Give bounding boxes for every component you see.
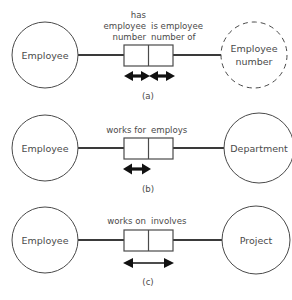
cardinality-arrow-a-2 [149, 71, 175, 81]
role-label-a-right-line2: number of [151, 32, 197, 42]
caption-a: (a) [142, 91, 154, 101]
entity-employee-b-label: Employee [21, 143, 68, 154]
role-label-b-left: works for [106, 125, 146, 135]
cardinality-arrow-a-1 [124, 71, 150, 81]
er-diagram-figure: Employee Employee number has employee nu… [0, 0, 292, 300]
entity-employee-number-a-label-line2: number [235, 56, 272, 67]
role-label-a-left-line3: number [112, 32, 146, 42]
panel-a: Employee Employee number has employee nu… [12, 10, 287, 101]
panel-c: Employee Project works on involves (c) [12, 206, 290, 287]
diagram-canvas: Employee Employee number has employee nu… [0, 0, 292, 300]
entity-department-b-label: Department [230, 143, 288, 154]
role-label-c-right: involves [151, 216, 187, 226]
panel-b: Employee Department works for employs (b… [12, 113, 292, 194]
cardinality-arrow-b-1 [123, 164, 151, 175]
entity-employee-number-a-label-line1: Employee [230, 43, 277, 54]
role-label-a-right-line1: is employee [151, 21, 203, 31]
role-label-c-left: works on [107, 216, 146, 226]
role-label-a-left-line1: has [131, 10, 147, 20]
role-label-a-left-line2: employee [104, 21, 146, 31]
role-label-b-right: employs [151, 125, 188, 135]
caption-b: (b) [142, 184, 154, 194]
entity-employee-a-label: Employee [21, 50, 68, 61]
entity-project-c-label: Project [240, 235, 273, 246]
cardinality-arrow-c-1 [123, 258, 174, 268]
caption-c: (c) [142, 277, 153, 287]
entity-employee-c-label: Employee [21, 235, 68, 246]
